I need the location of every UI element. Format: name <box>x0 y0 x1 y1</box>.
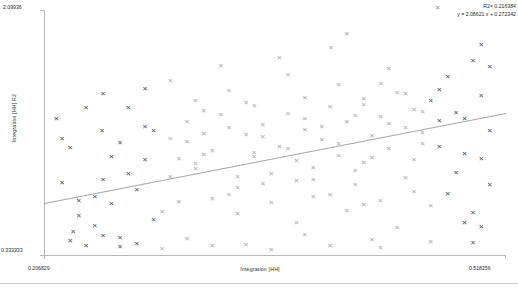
data-point: ✕ <box>352 168 359 175</box>
data-point: ✕ <box>360 160 367 167</box>
data-point: ✕ <box>284 72 291 79</box>
data-point: ✕ <box>243 132 250 139</box>
data-point: ✕ <box>100 91 107 98</box>
data-point: ✕ <box>310 165 317 172</box>
data-point: ✕ <box>259 181 266 188</box>
data-point: ✕ <box>402 175 409 182</box>
data-point: ✕ <box>70 229 77 236</box>
data-point: ✕ <box>453 170 460 177</box>
data-point: ✕ <box>75 198 82 205</box>
data-point: ✕ <box>167 174 174 181</box>
data-point: ✕ <box>469 240 476 247</box>
legend: ✕ R2= 0.216384 y = 2.08621 x + 0.272342 <box>424 3 516 18</box>
data-point: ✕ <box>243 100 250 107</box>
data-point: ✕ <box>125 105 132 112</box>
data-point: ✕ <box>83 243 90 250</box>
data-point: ✕ <box>394 90 401 97</box>
data-point: ✕ <box>461 116 468 123</box>
data-point: ✕ <box>402 125 409 132</box>
data-point: ✕ <box>125 171 132 178</box>
data-point: ✕ <box>184 236 191 243</box>
data-point: ✕ <box>318 137 325 144</box>
data-point: ✕ <box>385 66 392 73</box>
data-point: ✕ <box>385 121 392 128</box>
data-point: ✕ <box>142 157 149 164</box>
data-point: ✕ <box>217 112 224 119</box>
plot-area: ✕✕✕✕✕✕✕✕✕✕✕✕✕✕✕✕✕✕✕✕✕✕✕✕✕✕✕✕✕✕✕✕✕✕✕✕✕✕✕✕… <box>0 0 518 290</box>
footer-divider <box>0 283 518 284</box>
data-point: ✕ <box>116 140 123 147</box>
data-point: ✕ <box>167 136 174 143</box>
scatter-chart: 2.09936 0.333333 0.206829 0.518256 Integ… <box>0 0 518 290</box>
data-point: ✕ <box>343 31 350 38</box>
data-point: ✕ <box>99 128 106 135</box>
data-point: ✕ <box>158 246 165 253</box>
data-point: ✕ <box>402 91 409 98</box>
data-point: ✕ <box>200 108 207 115</box>
data-point: ✕ <box>284 146 291 153</box>
data-point: ✕ <box>67 238 74 245</box>
data-point: ✕ <box>360 202 367 209</box>
data-point: ✕ <box>259 134 266 141</box>
data-point: ✕ <box>486 182 493 189</box>
data-point: ✕ <box>378 81 385 88</box>
data-point: ✕ <box>200 131 207 138</box>
data-point: ✕ <box>175 199 182 206</box>
data-point: ✕ <box>158 209 165 216</box>
data-point: ✕ <box>444 191 451 198</box>
data-point: ✕ <box>58 136 65 143</box>
data-point: ✕ <box>369 155 376 162</box>
data-point: ✕ <box>108 154 115 161</box>
data-point: ✕ <box>100 177 107 184</box>
data-point: ✕ <box>419 130 426 137</box>
data-point: ✕ <box>142 124 149 131</box>
data-point: ✕ <box>486 128 493 135</box>
data-point: ✕ <box>167 78 174 85</box>
data-point: ✕ <box>385 146 392 153</box>
data-point: ✕ <box>209 243 216 250</box>
data-point: ✕ <box>335 82 342 89</box>
data-point: ✕ <box>67 145 74 152</box>
data-point: ✕ <box>411 157 418 164</box>
data-point: ✕ <box>377 114 384 121</box>
data-point: ✕ <box>192 161 199 168</box>
data-point: ✕ <box>209 148 216 155</box>
data-point: ✕ <box>326 192 333 199</box>
data-point: ✕ <box>478 224 485 231</box>
data-point: ✕ <box>83 105 90 112</box>
data-point: ✕ <box>175 156 182 163</box>
data-point: ✕ <box>419 109 426 116</box>
data-point: ✕ <box>360 102 367 109</box>
data-point: ✕ <box>328 45 335 52</box>
data-point: ✕ <box>293 158 300 165</box>
data-point: ✕ <box>192 98 199 105</box>
data-point: ✕ <box>343 208 350 215</box>
data-point: ✕ <box>301 116 308 123</box>
data-point: ✕ <box>318 124 325 131</box>
data-point: ✕ <box>234 174 241 181</box>
data-point: ✕ <box>142 86 149 93</box>
data-point: ✕ <box>226 125 233 132</box>
data-point: ✕ <box>444 74 451 81</box>
data-point: ✕ <box>478 42 485 49</box>
data-point: ✕ <box>301 95 308 102</box>
data-point: ✕ <box>116 244 123 251</box>
data-point: ✕ <box>276 144 283 151</box>
data-point: ✕ <box>377 198 384 205</box>
data-point: ✕ <box>411 107 418 114</box>
data-point: ✕ <box>478 156 485 163</box>
data-point: ✕ <box>419 141 426 148</box>
data-point: ✕ <box>301 232 308 239</box>
data-point: ✕ <box>200 152 207 159</box>
data-point: ✕ <box>108 201 115 208</box>
data-point: ✕ <box>335 153 342 160</box>
data-point: ✕ <box>91 223 98 230</box>
data-point: ✕ <box>150 128 157 135</box>
data-point: ✕ <box>427 239 434 246</box>
data-point: ✕ <box>310 194 317 201</box>
data-point: ✕ <box>58 180 65 187</box>
data-point: ✕ <box>284 111 291 118</box>
data-point: ✕ <box>293 220 300 227</box>
data-point: ✕ <box>436 118 443 125</box>
data-point: ✕ <box>453 110 460 117</box>
